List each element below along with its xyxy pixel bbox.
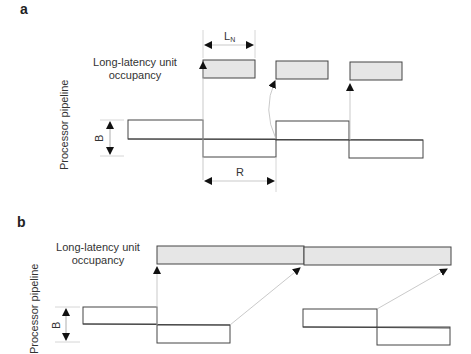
b-label: B [50, 322, 62, 329]
pipeline-block-upper [276, 121, 349, 140]
panel-b: b Long-latency unit occupancy Processor … [17, 214, 451, 354]
pipeline-block-lower [377, 327, 450, 345]
panel-a-unit-label-line2: occupancy [109, 69, 162, 81]
diagram-canvas: a Long-latency unit occupancy Processor … [0, 0, 471, 354]
pipeline-block-upper [83, 307, 157, 324]
panel-a-unit-label-line1: Long-latency unit [93, 56, 177, 68]
panel-a-pipeline-label: Processor pipeline [58, 80, 70, 171]
occupancy-box [276, 61, 328, 79]
occupancy-bar-2 [304, 247, 451, 265]
panel-b-unit-label-line1: Long-latency unit [56, 241, 140, 253]
panel-a: a Long-latency unit occupancy Processor … [20, 1, 423, 192]
completion-arrow [377, 269, 447, 309]
occupancy-box [203, 60, 255, 78]
panel-b-unit-label-line2: occupancy [72, 254, 125, 266]
pipeline-block-upper [303, 309, 377, 327]
b-label: B [93, 135, 105, 142]
pipeline-block-lower [157, 325, 230, 343]
panel-a-label: a [20, 1, 28, 17]
pipeline-block-lower [349, 140, 423, 158]
ln-label: LN [224, 30, 235, 43]
panel-b-label: b [17, 214, 26, 230]
panel-b-pipeline-label: Processor pipeline [28, 264, 40, 354]
r-label: R [236, 166, 244, 178]
occupancy-box [350, 62, 402, 80]
occupancy-bar-1 [157, 246, 304, 264]
pipeline-block-upper [128, 120, 203, 139]
pipeline-block-lower [203, 139, 276, 157]
completion-arrow [230, 268, 300, 325]
issue-arrow-curved [269, 81, 276, 139]
